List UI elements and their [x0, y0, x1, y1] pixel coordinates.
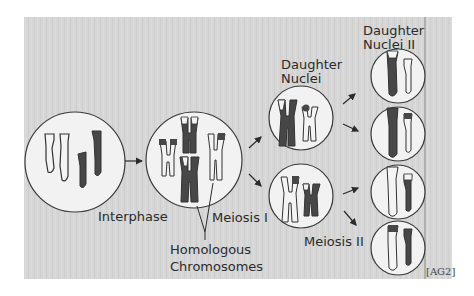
label-daughter-nuclei-line1: Daughter: [281, 57, 343, 72]
meiosis-1-nucleus: [146, 112, 242, 208]
chromosome-light: [388, 226, 398, 270]
chromosome-light: [60, 134, 69, 181]
daughter-nucleus-2-a: [371, 49, 425, 103]
daughter-nucleus-2-d: [371, 221, 425, 275]
daughter-nucleus-2-c: [371, 165, 425, 219]
label-homologous-line2: Chromosomes: [170, 259, 263, 274]
label-daughter-nuclei-line2: Nuclei: [281, 71, 321, 86]
label-homologous-line1: Homologous: [170, 242, 251, 257]
meiosis-diagram: Daughter Nuclei II Daughter Nuclei Inter…: [0, 0, 474, 296]
source-tag: [AG2]: [426, 266, 455, 277]
label-interphase: Interphase: [98, 209, 168, 224]
label-daughter-nuclei-2-line2: Nuclei II: [363, 37, 415, 52]
label-daughter-nuclei-2-line1: Daughter: [363, 23, 425, 38]
chromosome-light: [387, 167, 398, 216]
daughter-nucleus-2-b: [371, 107, 425, 161]
chromosome-dark: [387, 52, 398, 96]
daughter-nucleus-top: [269, 86, 333, 150]
chromosome-dark: [387, 108, 398, 157]
daughter-nucleus-bottom: [269, 164, 333, 228]
label-meiosis-2: Meiosis II: [304, 234, 364, 249]
label-meiosis-1: Meiosis I: [212, 210, 268, 225]
interphase-nucleus: [25, 112, 125, 212]
